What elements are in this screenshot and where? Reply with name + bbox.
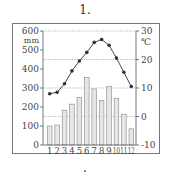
left-tick-label: 400 (22, 64, 39, 74)
right-tick-label: -10 (141, 140, 156, 150)
month-label: 1 (47, 146, 52, 156)
precip-bar (107, 86, 112, 145)
month-label: 10 (113, 146, 120, 156)
temperature-point (122, 71, 126, 75)
temperature-point (55, 90, 59, 94)
precip-bar (84, 78, 89, 145)
month-label: 3 (62, 146, 67, 156)
temperature-point (85, 51, 89, 55)
left-axis-unit: mm (24, 36, 40, 45)
precip-bar (55, 125, 60, 145)
temperature-point (78, 59, 82, 63)
temperature-point (70, 69, 74, 73)
precip-bar (129, 129, 134, 145)
climate-chart: 0100200300400500600mm-100102030℃12345678… (0, 0, 170, 178)
month-label: 2 (54, 146, 59, 156)
temperature-point (92, 41, 96, 45)
precip-bar (62, 110, 67, 145)
right-tick-label: 10 (141, 83, 153, 93)
month-label: 8 (99, 146, 104, 156)
month-label: 12 (128, 146, 135, 156)
temperature-point (115, 56, 119, 60)
precip-bar (114, 98, 119, 145)
month-label: 7 (91, 146, 96, 156)
right-tick-label: 0 (141, 112, 147, 122)
month-label: 4 (69, 146, 74, 156)
precip-bar (47, 126, 52, 145)
left-tick-label: 200 (22, 102, 39, 112)
right-tick-label: 20 (141, 55, 153, 65)
temperature-point (100, 38, 104, 42)
left-tick-label: 600 (22, 26, 39, 36)
left-tick-label: 0 (33, 140, 39, 150)
temperature-point (107, 43, 111, 47)
month-label: 6 (84, 146, 89, 156)
right-tick-label: 30 (141, 26, 153, 36)
month-label: 9 (106, 146, 111, 156)
precip-bar (92, 89, 97, 145)
temperature-point (48, 92, 52, 96)
temperature-point (63, 82, 67, 86)
precip-bar (77, 98, 82, 146)
month-label: 5 (77, 146, 82, 156)
page-mark (84, 170, 86, 172)
month-label: 11 (120, 146, 127, 156)
left-tick-label: 100 (22, 121, 39, 131)
temperature-line (50, 40, 132, 94)
precip-bar (70, 104, 75, 145)
temperature-point (129, 85, 133, 89)
left-tick-label: 300 (22, 83, 39, 93)
right-axis-unit: ℃ (141, 37, 151, 47)
left-tick-label: 500 (22, 45, 39, 55)
precip-bar (99, 100, 104, 145)
precip-bar (122, 114, 127, 145)
